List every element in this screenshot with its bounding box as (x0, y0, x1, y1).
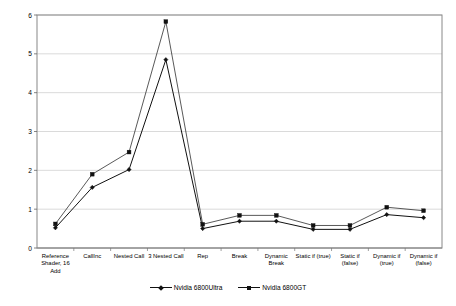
data-point (274, 213, 278, 217)
data-point (311, 227, 315, 231)
data-point (201, 222, 205, 226)
data-point (311, 224, 315, 228)
line-chart: Time (in sec) for 1500 Quads (512x512) 0… (0, 0, 456, 306)
data-point (421, 216, 425, 220)
data-point (201, 226, 205, 230)
data-point (348, 227, 352, 231)
data-point (164, 58, 168, 62)
data-point (274, 219, 278, 223)
data-point (127, 150, 131, 154)
data-point (237, 219, 241, 223)
chart-legend: Nvidia 6800Ultra Nvidia 6800GT (0, 283, 456, 291)
data-point (164, 20, 168, 24)
legend-item-gt: Nvidia 6800GT (238, 283, 306, 291)
data-point (385, 205, 389, 209)
legend-marker-diamond-icon (150, 284, 172, 291)
data-point (90, 172, 94, 176)
plot-area (0, 0, 456, 306)
data-point (238, 213, 242, 217)
data-point (348, 224, 352, 228)
series-line-gt (55, 22, 423, 226)
legend-label-ultra: Nvidia 6800Ultra (174, 284, 223, 291)
data-point (385, 213, 389, 217)
legend-label-gt: Nvidia 6800GT (262, 284, 306, 291)
series-line-ultra (55, 60, 423, 230)
legend-marker-square-icon (238, 284, 260, 291)
data-point (127, 167, 131, 171)
data-point (422, 209, 426, 213)
data-point (54, 222, 58, 226)
legend-item-ultra: Nvidia 6800Ultra (150, 283, 223, 291)
